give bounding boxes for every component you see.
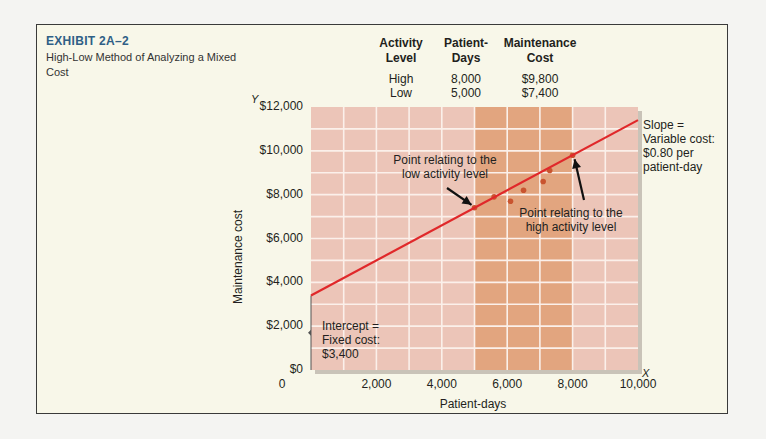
x-axis-label: Patient-days [400,397,546,411]
data-point [540,179,546,185]
y-tick-label: $0 [243,362,303,376]
y-axis-letter: Y [251,92,258,106]
x-tick-label: 0 [252,377,312,391]
x-axis-letter: X [642,366,649,380]
data-point [521,187,527,193]
intercept-annotation: Intercept =Fixed cost:$3,400 [322,319,380,361]
x-tick-label: 8,000 [543,377,603,391]
data-point [508,198,514,204]
y-tick-label: $6,000 [243,231,303,245]
y-tick-label: $2,000 [243,318,303,332]
x-tick-label: 6,000 [477,377,537,391]
chart-plot [0,0,766,439]
high-point-annotation: Point relating to thehigh activity level [508,206,634,234]
y-tick-label: $10,000 [243,143,303,157]
y-tick-label: $4,000 [243,274,303,288]
brace-tip [308,330,311,336]
y-tick-label: $8,000 [243,187,303,201]
x-tick-label: 4,000 [412,377,472,391]
x-tick-label: 10,000 [608,377,668,391]
y-axis-label: Maintenance cost [231,187,245,327]
x-tick-label: 2,000 [346,377,406,391]
low-point-annotation: Point relating to thelow activity level [380,153,510,181]
slope-annotation: Slope =Variable cost:$0.80 perpatient-da… [643,118,715,174]
